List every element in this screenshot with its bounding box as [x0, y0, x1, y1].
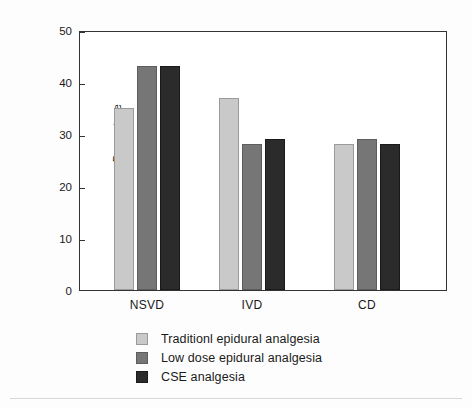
legend-item-cse: CSE analgesia	[136, 367, 396, 386]
bar-nsvd-lowdose	[137, 66, 157, 290]
y-tick-mark-30	[80, 136, 85, 137]
y-tick-label-30: 30	[46, 130, 72, 142]
legend-item-traditional: Traditionl epidural analgesia	[136, 329, 396, 348]
chart-legend: Traditionl epidural analgesia Low dose e…	[136, 329, 396, 386]
y-tick-mark-40	[80, 84, 85, 85]
bar-nsvd-cse	[160, 66, 180, 290]
chart-figure: Percentage 50 40 30 20 10 0 NSVD IVD CD	[0, 0, 472, 408]
legend-item-lowdose: Low dose epidural analgesia	[136, 348, 396, 367]
y-tick-mark-10	[80, 240, 85, 241]
legend-label-traditional: Traditionl epidural analgesia	[161, 332, 320, 346]
x-tick-label-cd: CD	[327, 298, 407, 312]
y-tick-label-20: 20	[46, 182, 72, 194]
x-tick-label-ivd: IVD	[212, 298, 292, 312]
legend-swatch-icon-lowdose	[136, 352, 148, 364]
bar-ivd-cse	[265, 139, 285, 290]
legend-swatch-icon-cse	[136, 371, 148, 383]
bar-cd-traditional	[334, 144, 354, 290]
y-tick-label-50: 50	[46, 26, 72, 38]
bar-nsvd-traditional	[114, 108, 134, 290]
legend-label-lowdose: Low dose epidural analgesia	[161, 351, 322, 365]
bar-cd-lowdose	[357, 139, 377, 290]
y-tick-label-10: 10	[46, 234, 72, 246]
plot-area: Percentage 50 40 30 20 10 0 NSVD IVD CD	[79, 31, 447, 291]
y-tick-label-40: 40	[46, 78, 72, 90]
x-tick-label-nsvd: NSVD	[107, 298, 187, 312]
bar-ivd-lowdose	[242, 144, 262, 290]
bar-cd-cse	[380, 144, 400, 290]
legend-label-cse: CSE analgesia	[161, 370, 245, 384]
page-divider	[10, 398, 462, 399]
y-tick-label-0: 0	[46, 286, 72, 298]
bar-ivd-traditional	[219, 98, 239, 290]
y-tick-mark-20	[80, 188, 85, 189]
legend-swatch-icon-traditional	[136, 333, 148, 345]
y-tick-mark-50	[80, 32, 85, 33]
